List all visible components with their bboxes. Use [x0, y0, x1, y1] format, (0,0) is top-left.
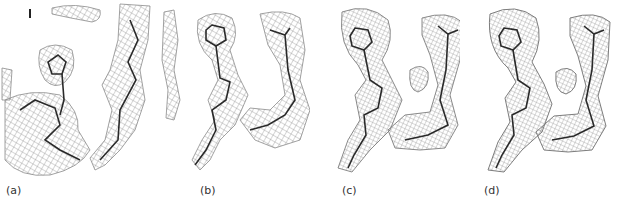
panel-b: (b) — [160, 0, 310, 178]
panel-label-c: (c) — [342, 184, 357, 197]
density-map-b — [160, 0, 310, 178]
density-map-a — [0, 0, 155, 178]
panel-label-d: (d) — [484, 184, 500, 197]
panel-c: (c) — [310, 0, 460, 178]
panel-label-a: (a) — [6, 184, 21, 197]
scale-bar — [29, 9, 31, 18]
density-map-d — [460, 0, 618, 178]
panel-d: (d) — [460, 0, 618, 178]
density-map-c — [310, 0, 460, 178]
panel-label-b: (b) — [200, 184, 216, 197]
panel-a: (a) — [0, 0, 155, 178]
